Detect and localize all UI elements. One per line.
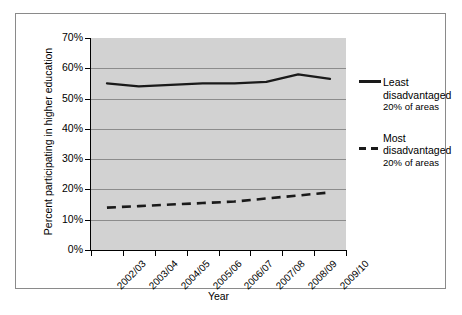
y-axis-line — [90, 38, 91, 251]
x-axis-tick — [346, 251, 347, 256]
legend-label-line2: disadvantaged — [383, 144, 454, 157]
x-axis-tick — [123, 251, 124, 256]
y-axis-tick-label-wrap: 10% — [38, 214, 83, 225]
legend-label-line3: 20% of areas — [383, 157, 454, 170]
chart-figure: Percent participating in higher educatio… — [0, 0, 462, 315]
x-axis-tick-label: 2002/03 — [115, 258, 148, 291]
legend-label-line1: Least — [383, 76, 454, 89]
x-axis-tick-label: 2003/04 — [146, 258, 179, 291]
chart-legend: Least disadvantaged 20% of areas Most di… — [359, 76, 454, 187]
x-axis-tick-label: 2008/09 — [306, 258, 339, 291]
x-axis-tick — [219, 251, 220, 256]
x-axis-tick — [250, 251, 251, 256]
legend-entry-most-disadvantaged: Most disadvantaged 20% of areas — [359, 132, 454, 170]
x-axis-tick — [155, 251, 156, 256]
series-lines — [91, 38, 346, 250]
y-axis-tick-label-wrap: 0% — [38, 244, 83, 255]
x-axis-tick — [187, 251, 188, 256]
y-axis-tick-label-wrap: 30% — [38, 153, 83, 164]
legend-label-line2: disadvantaged — [383, 89, 454, 102]
y-axis-tick-label: 0% — [43, 244, 83, 255]
y-axis-tick-label: 30% — [43, 153, 83, 164]
y-axis-tick-label: 10% — [43, 214, 83, 225]
y-axis-tick-label: 70% — [43, 32, 83, 43]
legend-swatch-dashed-icon — [359, 136, 381, 139]
y-axis-tick-label-wrap: 60% — [38, 62, 83, 73]
dashed-line-icon — [359, 147, 381, 150]
y-axis-tick-label-wrap: 20% — [38, 183, 83, 194]
x-axis-tick-label: 2009/10 — [338, 258, 371, 291]
legend-swatch-solid-icon — [359, 80, 381, 83]
series-line-least-disadvantaged — [107, 74, 330, 86]
legend-label-line1: Most — [383, 132, 454, 145]
x-axis-tick-label: 2007/08 — [274, 258, 307, 291]
figure-frame: Percent participating in higher educatio… — [15, 13, 446, 289]
y-axis-tick-label: 40% — [43, 123, 83, 134]
y-axis-tick-label: 50% — [43, 93, 83, 104]
y-axis-tick-label: 60% — [43, 62, 83, 73]
x-axis-tick — [91, 251, 92, 256]
x-axis-tick — [282, 251, 283, 256]
plot-area — [91, 38, 346, 250]
legend-entry-least-disadvantaged: Least disadvantaged 20% of areas — [359, 76, 454, 114]
x-axis-tick-label: 2005/06 — [210, 258, 243, 291]
x-axis-title: Year — [91, 291, 346, 302]
y-axis-tick-label: 20% — [43, 183, 83, 194]
x-axis-tick-label: 2004/05 — [178, 258, 211, 291]
y-axis-tick-label-wrap: 70% — [38, 32, 83, 43]
x-axis-tick-label: 2006/07 — [242, 258, 275, 291]
y-axis-tick-label-wrap: 40% — [38, 123, 83, 134]
series-line-most-disadvantaged — [107, 192, 330, 207]
legend-label-line3: 20% of areas — [383, 101, 454, 114]
x-axis-tick — [314, 251, 315, 256]
y-axis-tick-label-wrap: 50% — [38, 93, 83, 104]
